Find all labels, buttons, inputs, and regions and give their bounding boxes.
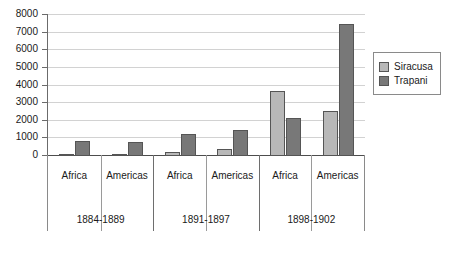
legend-item-siracusa[interactable]: Siracusa bbox=[379, 61, 433, 72]
legend-label-siracusa: Siracusa bbox=[394, 61, 433, 72]
bar-siracusa-africa-4 bbox=[270, 91, 285, 156]
bar-trapani-americas-1 bbox=[128, 142, 143, 156]
legend-swatch-icon-trapani bbox=[379, 76, 389, 86]
category-label-americas-5: Americas bbox=[311, 155, 364, 195]
category-label-africa-0: Africa bbox=[48, 155, 101, 195]
category-label-africa-2: Africa bbox=[153, 155, 206, 195]
y-axis-tick-label: 7000 bbox=[16, 27, 38, 37]
y-axis-tick-label: 1000 bbox=[16, 132, 38, 142]
period-label-1891-1897: 1891-1897 bbox=[153, 195, 258, 231]
bar-chart: 800070006000500040003000200010000 Africa… bbox=[0, 0, 452, 258]
y-axis-tick-label: 8000 bbox=[16, 9, 38, 19]
bar-trapani-africa-0 bbox=[75, 141, 90, 156]
y-axis-tick-label: 5000 bbox=[16, 62, 38, 72]
bar-trapani-africa-4 bbox=[286, 118, 301, 156]
bar-trapani-africa-2 bbox=[181, 134, 196, 156]
bar-trapani-americas-5 bbox=[339, 24, 354, 156]
category-table: AfricaAmericasAfricaAmericasAfricaAmeric… bbox=[47, 155, 365, 231]
y-axis: 800070006000500040003000200010000 bbox=[0, 0, 42, 258]
bars-layer bbox=[48, 14, 365, 156]
legend-swatch-icon-siracusa bbox=[379, 62, 389, 72]
category-label-americas-1: Americas bbox=[101, 155, 154, 195]
category-label-africa-4: Africa bbox=[259, 155, 312, 195]
legend-label-trapani: Trapani bbox=[394, 75, 428, 86]
period-label-row: 1884-18891891-18971898-1902 bbox=[48, 195, 364, 231]
category-label-americas-3: Americas bbox=[206, 155, 259, 195]
y-axis-tick-label: 3000 bbox=[16, 97, 38, 107]
legend-item-trapani[interactable]: Trapani bbox=[379, 75, 433, 86]
period-label-1898-1902: 1898-1902 bbox=[259, 195, 364, 231]
bar-siracusa-americas-5 bbox=[323, 111, 338, 156]
bar-trapani-americas-3 bbox=[233, 130, 248, 156]
y-axis-tick-label: 4000 bbox=[16, 80, 38, 90]
y-axis-tick-label: 0 bbox=[32, 150, 38, 160]
category-label-row: AfricaAmericasAfricaAmericasAfricaAmeric… bbox=[48, 155, 364, 195]
y-axis-tick-label: 6000 bbox=[16, 44, 38, 54]
period-label-1884-1889: 1884-1889 bbox=[48, 195, 153, 231]
chart-legend: SiracusaTrapani bbox=[373, 52, 441, 95]
y-axis-tick-label: 2000 bbox=[16, 115, 38, 125]
